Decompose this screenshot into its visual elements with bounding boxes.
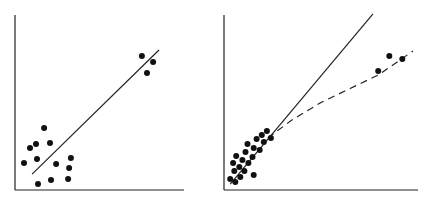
data-point (47, 140, 53, 146)
data-point (236, 164, 242, 170)
data-point (245, 160, 251, 166)
data-point (233, 153, 239, 159)
data-point (261, 139, 267, 145)
data-point (239, 157, 245, 163)
data-point (243, 149, 249, 155)
data-point (264, 128, 270, 134)
data-point (48, 177, 54, 183)
data-point (250, 154, 256, 160)
data-point (41, 125, 47, 131)
data-point (231, 168, 237, 174)
data-point (21, 160, 27, 166)
data-point (34, 156, 40, 162)
data-point (251, 145, 257, 151)
data-point (268, 135, 274, 141)
data-point (254, 136, 260, 142)
data-point (257, 147, 263, 153)
data-point (227, 176, 233, 182)
data-point (241, 168, 247, 174)
data-point (144, 70, 150, 76)
data-point (35, 181, 41, 187)
data-point (33, 141, 39, 147)
dashed-curve (268, 51, 413, 138)
data-point (27, 145, 33, 151)
data-point (150, 59, 156, 65)
scatter-charts (0, 0, 428, 200)
regression-line (32, 50, 159, 174)
right-scatter-panel (224, 14, 418, 190)
data-point (251, 172, 257, 178)
data-point (237, 174, 243, 180)
data-point (230, 160, 236, 166)
data-point (399, 56, 405, 62)
data-point (68, 155, 74, 161)
data-point (65, 176, 71, 182)
data-point (386, 53, 392, 59)
data-point (232, 179, 238, 185)
data-point (259, 132, 265, 138)
data-point (139, 53, 145, 59)
left-scatter-panel (15, 15, 184, 190)
data-point (66, 165, 72, 171)
data-point (53, 161, 59, 167)
data-point (245, 141, 251, 147)
data-point (375, 68, 381, 74)
